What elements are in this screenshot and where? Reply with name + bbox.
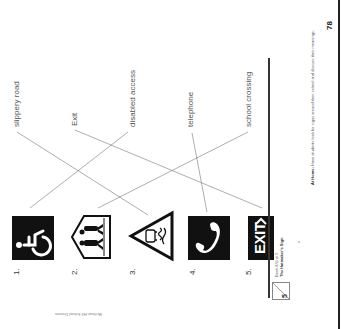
line-telephone (192, 133, 207, 212)
story-title: The Hatmaker's Sign (279, 238, 284, 277)
matching-lines (0, 0, 342, 329)
sign-number-5: 5. (244, 268, 253, 275)
wheelchair-icon (12, 216, 54, 260)
sign-number-4: 4. (188, 268, 197, 275)
sign-number-1: 1. (12, 268, 21, 275)
sign-number-2: 2. (70, 268, 79, 275)
at-home-label: At Home: (310, 167, 315, 185)
label-exit: Exit (70, 113, 79, 126)
unit-badge-number: 5 (281, 294, 288, 298)
line-school-crossing (98, 132, 248, 208)
sign-number-3: 3. (128, 268, 137, 275)
label-slippery-road: slippery road (12, 81, 21, 127)
line-disabled-access (30, 132, 128, 208)
dot (298, 241, 300, 243)
line-exit (75, 130, 262, 208)
label-school-crossing: school crossing (244, 72, 253, 127)
exit-sign-text: EXIT (251, 223, 268, 254)
publisher-credit: McGraw-Hill School Division (55, 312, 102, 316)
label-telephone: telephone (186, 92, 195, 127)
slippery-road-icon (128, 210, 174, 262)
at-home-note: At Home: Have students look for signs ar… (310, 30, 315, 185)
school-crossing-icon (70, 214, 112, 260)
telephone-icon (188, 216, 230, 260)
label-disabled-access: disabled access (128, 70, 137, 127)
footer-divider (268, 58, 270, 298)
page-edge-rule (338, 0, 340, 329)
unit-badge: 5 (272, 282, 290, 300)
at-home-text: Have students look for signs around thei… (310, 30, 315, 166)
exit-sign-icon: EXIT (248, 216, 274, 260)
page-number: 78 (325, 21, 334, 30)
